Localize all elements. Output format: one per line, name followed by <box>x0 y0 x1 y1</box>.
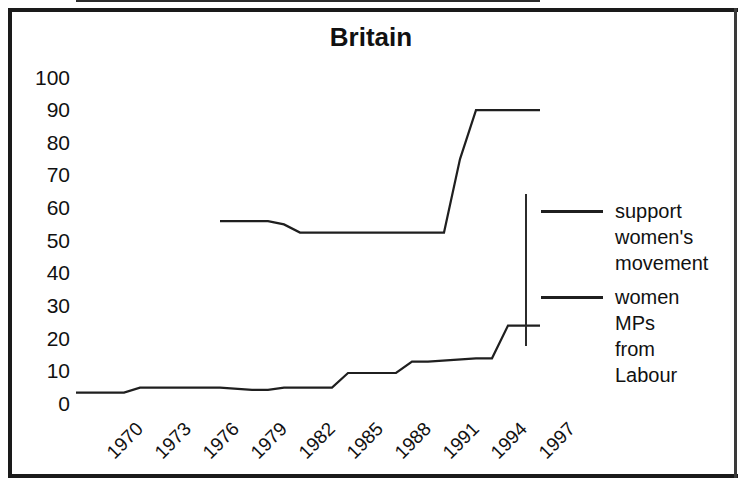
series-line-women-mps-from-labour <box>76 326 540 393</box>
x-axis-line <box>76 0 540 2</box>
legend-label-women-mps-from-labour: women MPs from Labour <box>615 284 679 388</box>
chart-page: Britain 1009080706050403020100 197019731… <box>0 0 742 495</box>
series-line-support-womens-movement <box>220 110 540 232</box>
legend-swatch-women-mps-from-labour <box>541 296 603 299</box>
legend-swatch-support-womens-movement <box>541 210 603 213</box>
legend-border <box>525 194 527 346</box>
chart-legend: support women's movement women MPs from … <box>525 194 737 346</box>
legend-label-support-womens-movement: support women's movement <box>615 198 708 276</box>
